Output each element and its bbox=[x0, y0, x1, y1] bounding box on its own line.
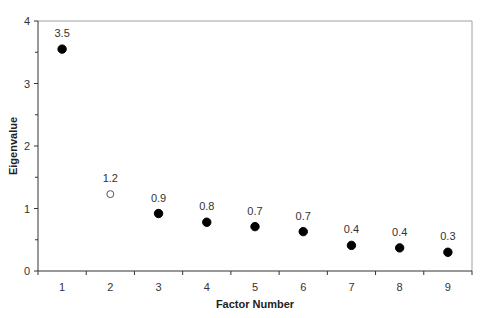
data-point bbox=[444, 248, 452, 256]
y-tick-label: 0 bbox=[24, 265, 30, 277]
x-tick-label: 6 bbox=[300, 281, 306, 293]
data-label: 0.3 bbox=[440, 230, 455, 242]
y-axis-title: Eigenvalue bbox=[7, 117, 19, 175]
data-label: 0.4 bbox=[344, 223, 359, 235]
y-tick-label: 3 bbox=[24, 78, 30, 90]
x-tick-label: 2 bbox=[107, 281, 113, 293]
scree-plot: 01234 123456789 3.51.20.90.80.70.70.40.4… bbox=[0, 0, 488, 318]
y-tick-label: 1 bbox=[24, 203, 30, 215]
data-label: 0.7 bbox=[247, 205, 262, 217]
data-label: 0.4 bbox=[392, 226, 407, 238]
data-label: 1.2 bbox=[103, 172, 118, 184]
y-axis: 01234 bbox=[24, 15, 38, 277]
data-point bbox=[203, 218, 211, 226]
data-point bbox=[154, 209, 162, 217]
x-axis-title: Factor Number bbox=[216, 298, 295, 310]
x-tick-label: 8 bbox=[397, 281, 403, 293]
x-tick-label: 9 bbox=[445, 281, 451, 293]
x-tick-label: 3 bbox=[155, 281, 161, 293]
x-tick-label: 4 bbox=[204, 281, 210, 293]
x-axis: 123456789 bbox=[38, 271, 472, 293]
data-label: 3.5 bbox=[54, 27, 69, 39]
data-label: 0.8 bbox=[199, 200, 214, 212]
x-tick-label: 7 bbox=[348, 281, 354, 293]
data-point bbox=[395, 244, 403, 252]
y-tick-label: 4 bbox=[24, 15, 30, 27]
x-tick-label: 1 bbox=[59, 281, 65, 293]
data-label: 0.9 bbox=[151, 192, 166, 204]
data-label: 0.7 bbox=[296, 210, 311, 222]
data-points: 3.51.20.90.80.70.70.40.40.3 bbox=[54, 27, 455, 256]
data-point bbox=[251, 222, 259, 230]
x-tick-label: 5 bbox=[252, 281, 258, 293]
data-point bbox=[299, 227, 307, 235]
data-point bbox=[58, 45, 66, 53]
data-point bbox=[347, 241, 355, 249]
y-tick-label: 2 bbox=[24, 140, 30, 152]
data-point bbox=[107, 191, 114, 198]
